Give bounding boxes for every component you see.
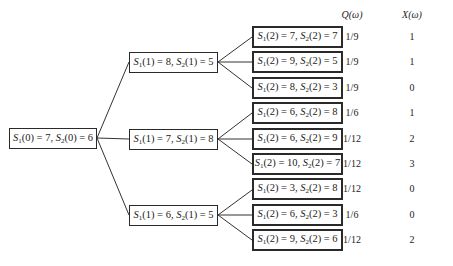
x-value: 0 [392,183,432,194]
mid-node: S1(1) = 8, S2(1) = 5 [129,52,218,73]
x-value: 0 [392,82,432,93]
q-value: 1/12 [332,133,372,144]
q-value: 1/12 [332,158,372,169]
leaf-node: S1(2) = 9, S2(2) = 5 [252,51,343,73]
mid-node: S1(1) = 7, S2(1) = 8 [129,129,218,150]
leaf-node: S1(2) = 7, S2(2) = 7 [252,26,343,48]
x-value: 1 [392,31,432,42]
leaf-node: S1(2) = 6, S2(2) = 9 [252,128,343,150]
x-value: 2 [392,133,432,144]
x-value: 2 [392,234,432,245]
x-value: 1 [392,107,432,118]
q-value: 1/9 [332,31,372,42]
q-value: 1/6 [332,107,372,118]
leaf-node: S1(2) = 6, S2(2) = 8 [252,102,343,124]
x-value: 1 [392,56,432,67]
q-value: 1/9 [332,82,372,93]
q-value: 1/9 [332,56,372,67]
root-node: S1(0) = 7, S2(0) = 6 [9,128,97,149]
leaf-node: S1(2) = 10, S2(2) = 7 [252,153,343,175]
leaf-node: S1(2) = 8, S2(2) = 3 [252,77,343,99]
x-value: 3 [392,158,432,169]
q-value: 1/6 [332,209,372,220]
q-value: 1/12 [332,234,372,245]
x-value: 0 [392,209,432,220]
q-value: 1/12 [332,183,372,194]
x-column-header: X(ω) [392,9,432,20]
q-column-header: Q(ω) [332,9,372,20]
leaf-node: S1(2) = 6, S2(2) = 3 [252,204,343,226]
leaf-node: S1(2) = 9, S2(2) = 6 [252,229,343,251]
mid-node: S1(1) = 6, S2(1) = 5 [129,205,218,226]
leaf-node: S1(2) = 3, S2(2) = 8 [252,178,343,200]
